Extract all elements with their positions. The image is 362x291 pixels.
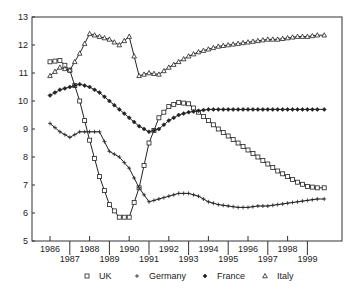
x-tick-label: 1994 (198, 244, 218, 254)
x-tick-label: 1990 (119, 244, 139, 254)
x-tick-label: 1989 (99, 254, 119, 264)
legend-item-germany: Germany (135, 271, 187, 281)
x-tick-label: 1986 (40, 244, 60, 254)
x-tick-label: 1993 (179, 254, 199, 264)
series-italy (48, 31, 327, 77)
legend-label: UK (99, 271, 112, 281)
legend-label: Italy (277, 271, 294, 281)
x-tick-label: 1998 (278, 244, 298, 254)
y-tick-label: 11 (19, 68, 28, 78)
legend-item-france: France (203, 271, 245, 281)
legend-label: France (217, 271, 245, 281)
x-tick-label: 1999 (297, 254, 317, 264)
legend: UKGermanyFranceItaly (85, 271, 294, 281)
legend-label: Germany (149, 271, 187, 281)
x-axis: 1986198819901992199419961998198719891991… (40, 236, 317, 264)
legend-item-uk: UK (85, 271, 112, 281)
plot-frame (32, 17, 342, 241)
series-france (48, 82, 326, 134)
series-uk (48, 58, 326, 219)
x-tick-label: 1997 (258, 254, 278, 264)
legend-item-italy: Italy (263, 271, 294, 281)
y-tick-label: 5 (23, 236, 28, 246)
y-tick-label: 10 (18, 96, 28, 106)
y-tick-label: 8 (23, 152, 28, 162)
x-tick-label: 1987 (60, 254, 80, 264)
x-tick-label: 1995 (218, 254, 238, 264)
series-germany (48, 121, 326, 209)
line-chart: 5678910111213 19861988199019921994199619… (0, 0, 362, 291)
x-tick-label: 1988 (80, 244, 100, 254)
x-tick-label: 1991 (139, 254, 159, 264)
y-tick-label: 6 (23, 208, 28, 218)
x-tick-label: 1996 (238, 244, 258, 254)
y-tick-label: 12 (18, 40, 28, 50)
y-tick-label: 9 (23, 124, 28, 134)
series-group (48, 31, 327, 219)
x-tick-label: 1992 (159, 244, 179, 254)
y-tick-label: 7 (23, 180, 28, 190)
y-tick-label: 13 (18, 12, 28, 22)
